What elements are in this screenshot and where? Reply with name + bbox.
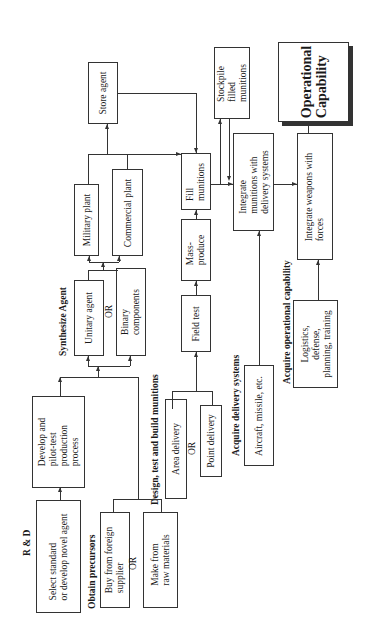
node-label: Commercial plant — [122, 178, 133, 246]
connector — [88, 154, 89, 184]
connector — [212, 391, 213, 405]
connector — [196, 352, 197, 391]
node-label: Mass- produce — [185, 235, 207, 266]
node-operational-capability: Operational Capability — [278, 42, 349, 122]
node-commercial-plant: Commercial plant — [112, 169, 143, 256]
node-fill-munitions: Fill munitions — [181, 153, 211, 210]
arrow-head — [194, 148, 198, 153]
node-buy-foreign: Buy from foreign supplier — [100, 512, 130, 608]
connector — [138, 377, 139, 499]
node-label: Binary components — [120, 289, 142, 335]
node-make-raw: Make from raw materials — [143, 512, 178, 608]
node-military-plant: Military plant — [74, 184, 99, 256]
arrow-head — [194, 281, 198, 286]
connector — [60, 377, 138, 378]
connector — [88, 270, 118, 271]
arrow-head — [316, 260, 320, 265]
connector — [259, 231, 260, 365]
node-label: Aircraft, missile, etc. — [254, 376, 265, 456]
node-label: Integrate weapons with forces — [304, 152, 326, 241]
connector — [88, 154, 181, 155]
node-label: Military plant — [81, 194, 92, 247]
arrow-head — [227, 176, 231, 181]
connector — [196, 93, 197, 153]
arrow-head — [194, 352, 198, 357]
group-label-design: Design, test and build munitions — [150, 374, 160, 505]
arrow-head — [176, 152, 181, 156]
group-label-precursors: Obtain precursors — [87, 534, 97, 609]
arrow-head — [194, 210, 198, 215]
node-area-delivery: Area delivery — [165, 399, 187, 499]
node-label: Area delivery — [171, 423, 182, 475]
group-label-delivery: Acquire delivery systems — [231, 355, 241, 456]
arrow-head — [218, 119, 222, 124]
connector — [172, 391, 212, 392]
arrow-head — [86, 356, 90, 361]
arrow-head — [87, 256, 91, 261]
connector — [308, 122, 309, 133]
or-label-delivery: OR — [187, 442, 197, 455]
node-label: Stockpile filled munitions — [216, 64, 249, 102]
node-logistics: Logistics, defense, planning, training — [293, 300, 338, 388]
node-label: Unitary agent — [84, 292, 95, 344]
connector — [88, 366, 130, 367]
arrow-head — [128, 356, 132, 361]
node-select-agent: Select standard or develop novel agent — [36, 500, 81, 613]
node-label: Field test — [191, 306, 202, 341]
node-label: Integrate munitions with delivery system… — [237, 150, 270, 214]
node-stockpile: Stockpile filled munitions — [214, 47, 250, 119]
arrow-head — [58, 487, 62, 492]
connector — [118, 93, 196, 94]
node-label: Develop and pilot-test production proces… — [37, 418, 81, 466]
node-store-agent: Store agent — [88, 62, 118, 124]
or-label-synthesize: OR — [104, 305, 114, 318]
connector — [172, 391, 173, 409]
connector — [113, 499, 161, 500]
connector — [220, 119, 221, 184]
node-label: Fill munitions — [185, 162, 207, 200]
node-binary: Binary components — [116, 268, 146, 356]
connector — [161, 499, 162, 512]
node-point-delivery: Point delivery — [200, 405, 222, 477]
node-unitary: Unitary agent — [74, 280, 104, 356]
connector — [127, 154, 128, 169]
connector — [318, 260, 319, 300]
arrow-head — [105, 124, 109, 129]
group-label-synthesize: Synthesize Agent — [58, 287, 68, 356]
node-label: Make from raw materials — [150, 534, 172, 585]
node-aircraft: Aircraft, missile, etc. — [244, 365, 274, 466]
node-label: Logistics, defense, planning, training — [299, 310, 332, 378]
node-label: Operational Capability — [299, 46, 329, 118]
node-field-test: Field test — [181, 295, 211, 352]
connector — [88, 270, 89, 280]
arrow-head — [228, 182, 233, 186]
node-label: Store agent — [98, 71, 109, 114]
connector — [89, 262, 119, 263]
arrow-head — [117, 256, 121, 261]
or-label-precursors: OR — [128, 557, 138, 570]
node-label: Select standard or develop novel agent — [48, 513, 70, 600]
group-label-rnd: R & D — [22, 530, 32, 556]
node-mass-produce: Mass- produce — [181, 219, 211, 281]
node-integrate-weapons: Integrate weapons with forces — [297, 133, 333, 260]
arrow-head — [292, 182, 297, 186]
node-develop-process: Develop and pilot-test production proces… — [32, 396, 85, 488]
group-label-operational: Acquire operational capability — [282, 260, 292, 384]
arrow-head — [257, 231, 261, 236]
connector — [113, 499, 114, 512]
node-label: Point delivery — [206, 414, 217, 468]
node-integrate-munitions: Integrate munitions with delivery system… — [233, 133, 274, 231]
connector — [229, 119, 230, 179]
node-label: Buy from foreign supplier — [104, 527, 126, 594]
